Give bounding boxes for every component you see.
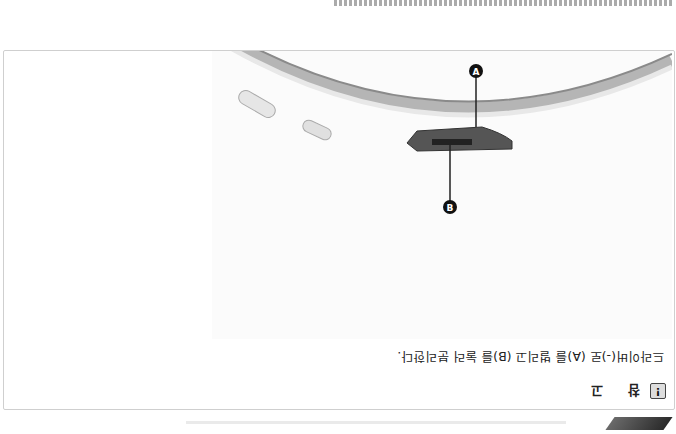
clipped-footer-text: [332, 0, 672, 6]
header-rule: [186, 421, 566, 424]
page-header-strip: [0, 414, 676, 434]
trim-illustration: B A: [212, 51, 672, 339]
manual-page: ! 참 고 드라이버(-)로 (A)를 벌리고 (B)를 눌러 분리한다. B: [0, 0, 676, 434]
svg-text:A: A: [473, 67, 480, 77]
svg-text:B: B: [447, 203, 454, 213]
exclamation-icon: !: [650, 384, 666, 400]
note-box: ! 참 고 드라이버(-)로 (A)를 벌리고 (B)를 눌러 분리한다. B: [3, 50, 675, 410]
section-tab-decoration: [605, 417, 672, 430]
note-title: 참 고: [581, 382, 640, 401]
note-header: ! 참 고: [581, 382, 666, 401]
trim-clip-photo: B A: [212, 51, 672, 339]
note-instruction-text: 드라이버(-)로 (A)를 벌리고 (B)를 눌러 분리한다.: [397, 348, 664, 367]
